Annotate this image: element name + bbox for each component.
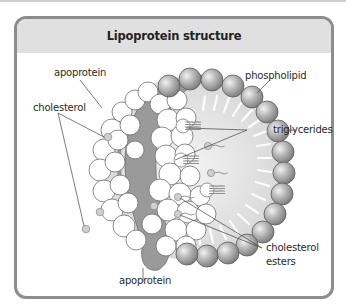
label-phospholipid: phospholipid: [245, 69, 306, 82]
label-cholesterol-esters-line2: esters: [266, 255, 296, 268]
label-cholesterol: cholesterol: [33, 101, 86, 114]
label-apoprotein-top: apoprotein: [54, 66, 106, 79]
label-apoprotein-bottom: apoprotein: [119, 274, 171, 287]
label-cholesterol-esters-line1: cholesterol: [266, 241, 319, 254]
label-triglycerides: triglycerides: [273, 123, 333, 136]
